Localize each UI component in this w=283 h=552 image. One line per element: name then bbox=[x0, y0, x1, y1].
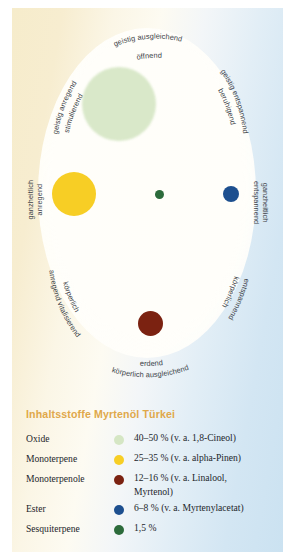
axis-label-top-line2: öffnend bbox=[136, 51, 162, 62]
sesquiterpene-swatch-icon bbox=[114, 525, 124, 535]
ester-swatch-icon bbox=[114, 505, 124, 515]
ester-bubble bbox=[223, 186, 239, 202]
legend-row-value: 40–50 % (v. a. 1,8-Cineol) bbox=[130, 431, 283, 445]
legend-row-name: Monoterpenole bbox=[12, 471, 108, 486]
monoterpene-bubble bbox=[52, 172, 96, 216]
monoterpenole-bubble bbox=[138, 311, 163, 336]
legend-block: Inhaltsstoffe Myrtenöl Türkei Oxide 40–5… bbox=[12, 390, 283, 552]
axis-label-right-line2: entspannend bbox=[251, 163, 260, 243]
legend-row-name: Ester bbox=[12, 501, 108, 516]
legend-row-value: 1,5 % bbox=[130, 521, 283, 535]
axis-label-bottom-line1: erdend bbox=[140, 358, 164, 368]
axis-label-left: ganzheitlich anregend bbox=[27, 162, 44, 238]
legend-swatch-cell bbox=[108, 471, 130, 485]
axis-label-right-line1: ganzheitlich bbox=[261, 183, 270, 223]
legend-row-value-line1: 12–16 % (v. a. Linalool, bbox=[134, 472, 227, 483]
legend-row-name: Oxide bbox=[12, 431, 108, 446]
axis-label-right: ganzheitlich entspannend bbox=[251, 163, 268, 243]
oxide-swatch-icon bbox=[114, 435, 124, 445]
monoterpenole-swatch-icon bbox=[114, 475, 124, 485]
figure-panel: geistig ausgleichend öffnend geistig anr… bbox=[12, 8, 283, 552]
legend-swatch-cell bbox=[108, 501, 130, 515]
legend-title: Inhaltsstoffe Myrtenöl Türkei bbox=[26, 408, 175, 420]
legend-table: Oxide 40–50 % (v. a. 1,8-Cineol) Monoter… bbox=[12, 430, 283, 540]
legend-row-value-line1: 25–35 % (v. a. alpha-Pinen) bbox=[134, 452, 241, 463]
page-edge-gutter bbox=[0, 0, 12, 552]
legend-row-value-line2: Myrtenol) bbox=[134, 485, 283, 499]
sesquiterpene-bubble bbox=[155, 190, 164, 199]
legend-row-name: Sesquiterpene bbox=[12, 521, 108, 536]
axis-label-top-line1: geistig ausgleichend bbox=[112, 32, 183, 49]
legend-row-value-line1: 6–8 % (v. a. Myrtenylacetat) bbox=[134, 502, 244, 513]
legend-swatch-cell bbox=[108, 521, 130, 535]
axis-label-left-line1: ganzheitlich bbox=[26, 180, 35, 220]
oxide-bubble bbox=[82, 67, 156, 141]
quadrant-diagram: geistig ausgleichend öffnend geistig anr… bbox=[12, 8, 283, 380]
table-row: Ester 6–8 % (v. a. Myrtenylacetat) bbox=[12, 500, 283, 520]
legend-swatch-cell bbox=[108, 451, 130, 465]
table-row: Monoterpenole 12–16 % (v. a. Linalool, M… bbox=[12, 470, 283, 500]
legend-row-value: 6–8 % (v. a. Myrtenylacetat) bbox=[130, 501, 283, 515]
legend-row-value: 12–16 % (v. a. Linalool, Myrtenol) bbox=[130, 471, 283, 499]
legend-row-value-line1: 40–50 % (v. a. 1,8-Cineol) bbox=[134, 432, 236, 443]
monoterpene-swatch-icon bbox=[114, 455, 124, 465]
table-row: Sesquiterpene 1,5 % bbox=[12, 520, 283, 540]
aroma-profile-figure: geistig ausgleichend öffnend geistig anr… bbox=[0, 0, 283, 552]
legend-swatch-cell bbox=[108, 431, 130, 445]
table-row: Monoterpene 25–35 % (v. a. alpha-Pinen) bbox=[12, 450, 283, 470]
legend-row-value-line1: 1,5 % bbox=[134, 522, 156, 533]
legend-row-name: Monoterpene bbox=[12, 451, 108, 466]
axis-label-left-line2: anregend bbox=[36, 162, 45, 238]
legend-row-value: 25–35 % (v. a. alpha-Pinen) bbox=[130, 451, 283, 465]
table-row: Oxide 40–50 % (v. a. 1,8-Cineol) bbox=[12, 430, 283, 450]
